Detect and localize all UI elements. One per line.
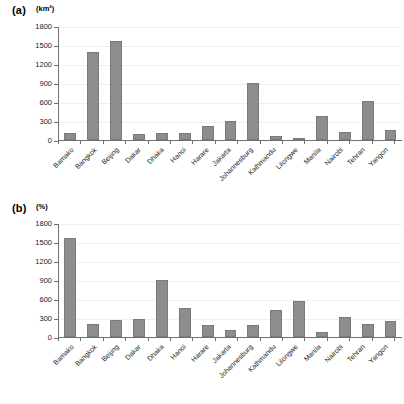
gridline: [59, 141, 402, 142]
y-axis-tick-label: 900: [39, 277, 52, 285]
bar-slot: [59, 27, 82, 140]
bar-slot: [379, 27, 402, 140]
y-axis-tick-label: 600: [39, 296, 52, 304]
y-axis-tick-label: 1500: [35, 239, 52, 247]
bar-slot: [196, 224, 219, 337]
bar-lilongwe[interactable]: [293, 138, 305, 140]
x-label-slot: Harare: [193, 143, 215, 195]
x-axis-label-beijing: Beijing: [100, 146, 120, 166]
x-axis-label-harare: Harare: [190, 343, 210, 363]
y-axis-tick-label: 1200: [35, 258, 52, 266]
bar-kathmandu[interactable]: [270, 136, 282, 140]
bar-slot: [173, 27, 196, 140]
bar-slot: [59, 224, 82, 337]
bar-slot: [333, 27, 356, 140]
x-label-slot: Beijing: [104, 340, 126, 392]
bar-slot: [105, 27, 128, 140]
y-axis-unit-b: (%): [36, 202, 48, 211]
bar-kathmandu[interactable]: [270, 310, 282, 337]
x-label-slot: Harare: [193, 340, 215, 392]
y-axis-tick-mark: [54, 243, 58, 244]
y-axis-tick-label: 0: [48, 137, 52, 145]
bar-hanoi[interactable]: [179, 133, 191, 140]
bar-slot: [288, 27, 311, 140]
bar-slot: [150, 27, 173, 140]
x-label-slot: Nairobi: [328, 143, 350, 195]
bar-jakarta[interactable]: [225, 330, 237, 337]
bar-bamako[interactable]: [64, 133, 76, 140]
bar-slot: [150, 224, 173, 337]
bar-slot: [128, 224, 151, 337]
bar-beijing[interactable]: [110, 41, 122, 140]
bar-slot: [196, 27, 219, 140]
bar-yangon[interactable]: [385, 321, 397, 337]
bar-series-b: [59, 224, 402, 337]
x-axis-label-manila: Manila: [302, 146, 322, 166]
bar-tehran[interactable]: [362, 324, 374, 337]
panel-label-b: (b): [12, 202, 27, 214]
bar-yangon[interactable]: [385, 130, 397, 140]
y-axis-tick-mark: [54, 84, 58, 85]
bar-bamako[interactable]: [64, 238, 76, 337]
bar-nairobi[interactable]: [339, 132, 351, 140]
x-label-slot: Beijing: [104, 143, 126, 195]
y-axis-tick-label: 300: [39, 315, 52, 323]
bar-slot: [128, 27, 151, 140]
bar-dakar[interactable]: [133, 319, 145, 337]
panel-label-a: (a): [12, 4, 26, 16]
bar-slot: [219, 27, 242, 140]
bar-slot: [310, 224, 333, 337]
x-label-slot: Dhaka: [149, 143, 171, 195]
bar-bangkok[interactable]: [87, 324, 99, 337]
y-axis-tick-mark: [54, 319, 58, 320]
x-label-slot: Yangon: [373, 340, 395, 392]
y-axis-tick-label: 1200: [35, 61, 52, 69]
y-axis-tick-mark: [54, 65, 58, 66]
y-axis-tick-mark: [54, 224, 58, 225]
bar-johannesburg[interactable]: [247, 83, 259, 140]
y-axis-tick-label: 1800: [35, 220, 52, 228]
x-label-slot: Nairobi: [328, 340, 350, 392]
bar-slot: [356, 224, 379, 337]
bar-beijing[interactable]: [110, 320, 122, 337]
bar-slot: [173, 224, 196, 337]
y-axis-tick-mark: [54, 300, 58, 301]
bar-johannesburg[interactable]: [247, 325, 259, 337]
bar-dhaka[interactable]: [156, 280, 168, 337]
y-axis-tick-mark: [54, 281, 58, 282]
x-axis-label-dakar: Dakar: [124, 146, 142, 164]
x-axis-label-dhaka: Dhaka: [146, 343, 165, 362]
x-axis-label-dhaka: Dhaka: [146, 146, 165, 165]
x-axis-label-hanoi: Hanoi: [169, 343, 187, 361]
bar-tehran[interactable]: [362, 101, 374, 140]
bar-manila[interactable]: [316, 332, 328, 337]
y-axis-tick-mark: [54, 46, 58, 47]
x-label-slot: Bangkok: [81, 340, 103, 392]
x-label-slot: Lilongwe: [283, 143, 305, 195]
bar-dhaka[interactable]: [156, 133, 168, 140]
bar-slot: [288, 224, 311, 337]
y-axis-tick-mark: [54, 27, 58, 28]
x-label-slot: Lilongwe: [283, 340, 305, 392]
bar-slot: [265, 27, 288, 140]
x-label-slot: Hanoi: [171, 143, 193, 195]
bar-lilongwe[interactable]: [293, 301, 305, 337]
bar-slot: [219, 224, 242, 337]
bar-bangkok[interactable]: [87, 52, 99, 140]
bar-slot: [105, 224, 128, 337]
bar-nairobi[interactable]: [339, 317, 351, 337]
x-label-slot: Yangon: [373, 143, 395, 195]
bar-slot: [356, 27, 379, 140]
bar-harare[interactable]: [202, 325, 214, 337]
bar-jakarta[interactable]: [225, 121, 237, 140]
x-label-slot: Hanoi: [171, 340, 193, 392]
x-axis-label-hanoi: Hanoi: [169, 146, 187, 164]
x-axis-labels-b: BamakoBangkokBeijingDakarDhakaHanoiHarar…: [59, 340, 395, 392]
x-label-slot: Tehran: [350, 143, 372, 195]
bar-harare[interactable]: [202, 126, 214, 140]
x-axis-label-beijing: Beijing: [100, 343, 120, 363]
bar-hanoi[interactable]: [179, 308, 191, 337]
bar-dakar[interactable]: [133, 134, 145, 140]
bar-manila[interactable]: [316, 116, 328, 140]
y-axis-tick-mark: [54, 122, 58, 123]
